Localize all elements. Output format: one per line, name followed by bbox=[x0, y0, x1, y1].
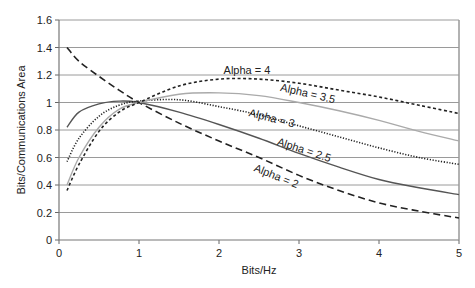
series-label: Alpha = 2.5 bbox=[276, 135, 333, 164]
x-tick-label: 0 bbox=[56, 247, 62, 259]
series-label: Alpha = 3.5 bbox=[279, 81, 336, 105]
series-labels: Alpha = 4Alpha = 3.5Alpha = 3Alpha = 2.5… bbox=[224, 64, 337, 190]
series-label: Alpha = 4 bbox=[224, 64, 271, 76]
x-axis-label: Bits/Hz bbox=[242, 264, 277, 276]
x-tick-label: 5 bbox=[456, 247, 462, 259]
y-tick-label: 0.4 bbox=[37, 179, 52, 191]
x-tick-label: 4 bbox=[376, 247, 382, 259]
y-tick-label: 0.2 bbox=[37, 207, 52, 219]
series-label: Alpha = 3 bbox=[248, 106, 296, 129]
chart-svg: 00.20.40.60.811.21.41.6012345 Alpha = 4A… bbox=[0, 0, 475, 288]
x-tick-label: 2 bbox=[216, 247, 222, 259]
x-tick-label: 1 bbox=[136, 247, 142, 259]
y-tick-label: 0.6 bbox=[37, 152, 52, 164]
y-tick-label: 0 bbox=[46, 234, 52, 246]
y-tick-label: 1.6 bbox=[37, 14, 52, 26]
x-tick-label: 3 bbox=[296, 247, 302, 259]
y-tick-label: 1 bbox=[46, 97, 52, 109]
y-tick-label: 0.8 bbox=[37, 124, 52, 136]
y-tick-label: 1.4 bbox=[37, 42, 52, 54]
y-tick-label: 1.2 bbox=[37, 69, 52, 81]
axes: 00.20.40.60.811.21.41.6012345 bbox=[37, 14, 462, 259]
y-axis-label: Bits/Communications Area bbox=[15, 65, 27, 195]
line-chart: 00.20.40.60.811.21.41.6012345 Alpha = 4A… bbox=[0, 0, 475, 288]
